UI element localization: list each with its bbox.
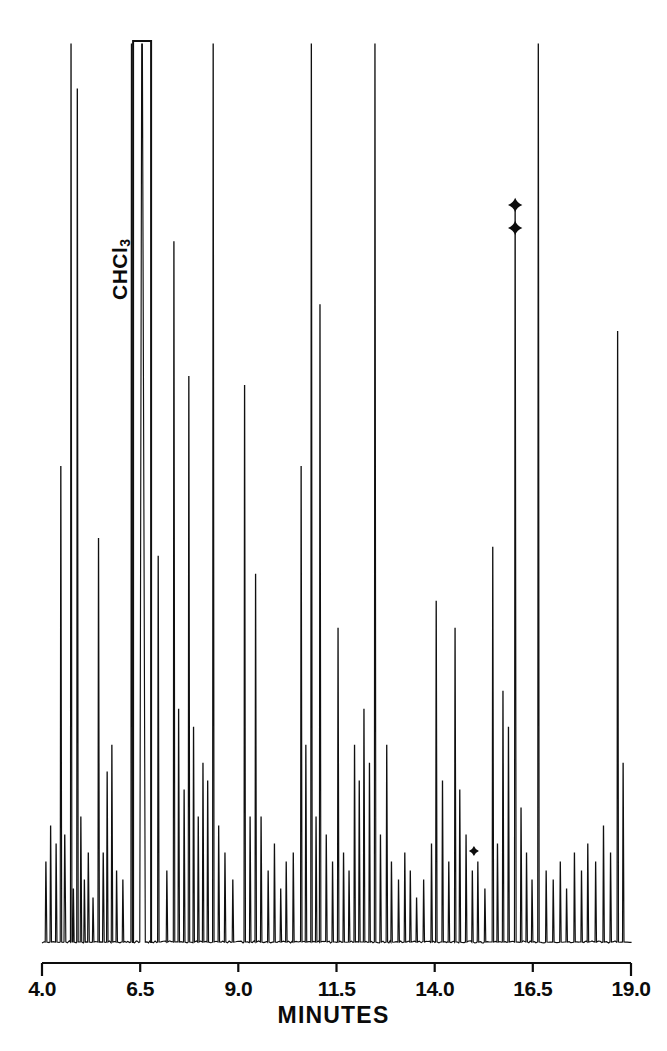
axis-baseline-rule bbox=[42, 963, 631, 976]
marker-baseline-icon bbox=[469, 846, 479, 856]
detector-response-trace bbox=[42, 44, 631, 943]
solvent-label-text: CHCl bbox=[108, 247, 131, 300]
solvent-label-subscript: 3 bbox=[117, 238, 133, 246]
marker-upper-icon bbox=[508, 198, 522, 212]
solvent-peak-label: CHCl3 bbox=[108, 238, 132, 300]
axis-title: MINUTES bbox=[0, 1002, 667, 1029]
chromatogram-figure: 4.06.59.011.514.016.519.0 MINUTES CHCl3 bbox=[0, 0, 667, 1051]
marker-lower-icon bbox=[508, 221, 522, 235]
saturated-solvent-peak bbox=[133, 41, 151, 943]
chromatogram-plot bbox=[0, 0, 667, 1051]
time-axis bbox=[42, 963, 631, 976]
